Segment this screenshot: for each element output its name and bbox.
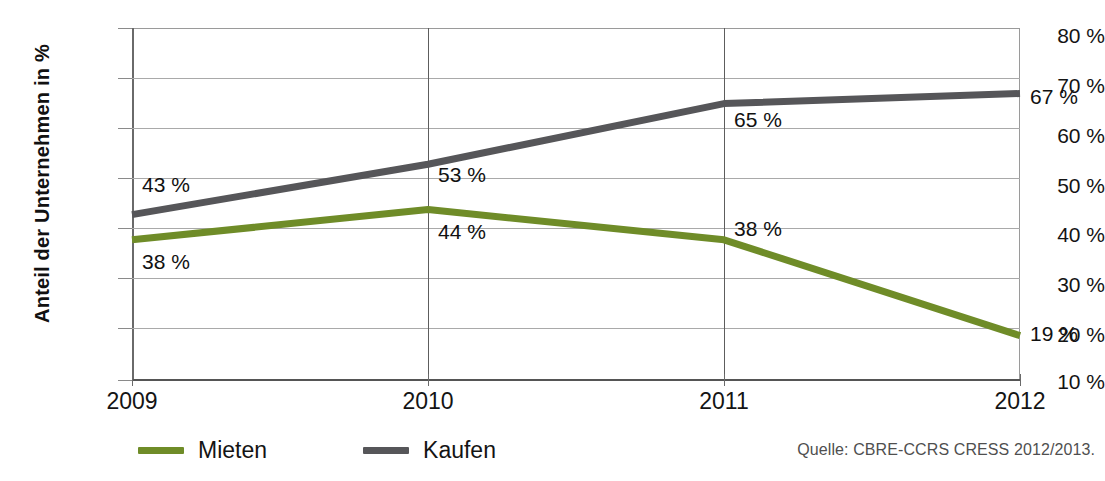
y-tick-mark-80 (118, 28, 132, 29)
x-tick-label-2011: 2011 (654, 388, 794, 415)
data-label-kaufen-2009: 43 % (142, 173, 190, 197)
x-tick-mark-2009 (132, 374, 133, 386)
y-tick-mark-10 (118, 380, 132, 381)
data-label-kaufen-2010: 53 % (438, 163, 486, 187)
y-tick-mark-40 (118, 228, 132, 229)
data-label-kaufen-2012: 67 % (1030, 85, 1078, 109)
y-tick-label-50: 50 % (1027, 174, 1105, 198)
y-tick-mark-30 (118, 278, 132, 279)
data-label-mieten-2010: 44 % (438, 220, 486, 244)
legend-label-kaufen: Kaufen (423, 437, 496, 464)
series-line-mieten (132, 210, 1020, 336)
series-line-kaufen (132, 94, 1020, 215)
y-tick-mark-20 (118, 328, 132, 329)
x-tick-mark-2010 (428, 374, 429, 386)
legend-item-kaufen[interactable]: Kaufen (363, 437, 496, 464)
y-tick-label-30: 30 % (1027, 273, 1105, 297)
y-tick-mark-50 (118, 178, 132, 179)
source-note: Quelle: CBRE-CCRS CRESS 2012/2013. (797, 441, 1095, 459)
legend-label-mieten: Mieten (198, 437, 267, 464)
y-tick-mark-70 (118, 78, 132, 79)
data-label-mieten-2012: 19 % (1030, 322, 1078, 346)
x-tick-mark-2011 (724, 374, 725, 386)
data-label-kaufen-2011: 65 % (734, 108, 782, 132)
legend-swatch-mieten-icon (138, 447, 184, 454)
y-tick-label-60: 60 % (1027, 124, 1105, 148)
y-tick-label-80: 80 % (1027, 24, 1105, 48)
y-tick-label-40: 40 % (1027, 223, 1105, 247)
chart-legend: Mieten Kaufen (138, 437, 496, 464)
series-lines (132, 28, 1020, 381)
x-tick-label-2012: 2012 (950, 388, 1090, 415)
x-tick-mark-2012 (1020, 374, 1021, 386)
x-tick-label-2009: 2009 (62, 388, 202, 415)
y-axis-title: Anteil der Unternehmen in % (31, 4, 54, 364)
legend-swatch-kaufen-icon (363, 447, 409, 454)
legend-item-mieten[interactable]: Mieten (138, 437, 267, 464)
data-label-mieten-2009: 38 % (142, 250, 190, 274)
data-label-mieten-2011: 38 % (734, 217, 782, 241)
y-tick-mark-60 (118, 128, 132, 129)
chart-figure: Anteil der Unternehmen in % 80 % 70 % 60… (0, 0, 1105, 481)
plot-area: 43 % 38 % 53 % 44 % 65 % 38 % 67 % 19 % (132, 28, 1020, 381)
x-tick-label-2010: 2010 (358, 388, 498, 415)
